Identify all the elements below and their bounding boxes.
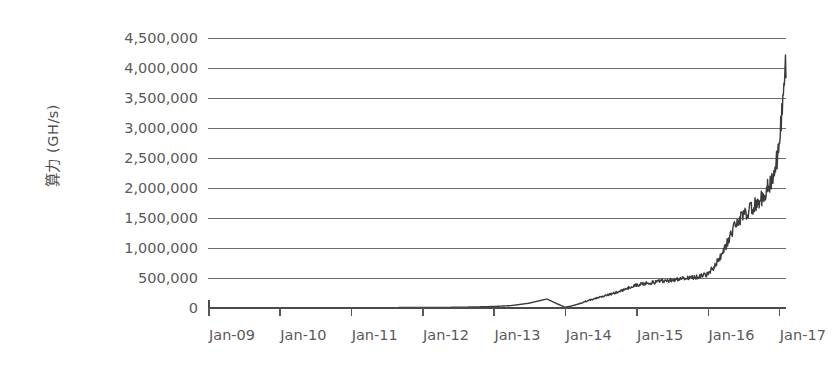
x-axis-tick — [493, 308, 495, 316]
x-axis-tick — [208, 308, 210, 316]
x-axis-tick-label: Jan-10 — [280, 326, 326, 344]
y-axis-tick-label: 3,500,000 — [70, 91, 198, 106]
x-axis-tick — [351, 308, 353, 316]
hashrate-line — [208, 55, 786, 308]
y-axis-title-label: 算力 (GH/s) — [41, 103, 62, 186]
x-axis-tick-label: Jan-13 — [494, 326, 540, 344]
y-axis-tick-label: 3,000,000 — [70, 121, 198, 136]
y-axis-tick-labels: 4,500,0004,000,0003,500,0003,000,0002,50… — [70, 0, 198, 377]
x-axis-tick — [565, 308, 567, 316]
x-axis-tick-label: Jan-12 — [423, 326, 469, 344]
x-axis-tick — [779, 308, 781, 316]
y-axis-title: 算力 (GH/s) — [34, 60, 68, 230]
y-axis-tick-label: 500,000 — [70, 271, 198, 286]
series-line — [208, 38, 786, 308]
x-axis-tick-label: Jan-17 — [780, 326, 826, 344]
y-axis-tick-label: 2,500,000 — [70, 151, 198, 166]
x-axis-tick-label: Jan-16 — [708, 326, 754, 344]
x-axis-tick-label: Jan-09 — [209, 326, 255, 344]
plot-area — [208, 38, 786, 308]
x-axis-tick — [279, 308, 281, 316]
x-axis-tick-labels: Jan-09Jan-10Jan-11Jan-12Jan-13Jan-14Jan-… — [0, 326, 839, 350]
x-axis-tick-label: Jan-15 — [637, 326, 683, 344]
y-axis-tick-label: 2,000,000 — [70, 181, 198, 196]
y-axis-tick-label: 4,000,000 — [70, 61, 198, 76]
x-axis-tick-label: Jan-11 — [352, 326, 398, 344]
x-axis-tick-label: Jan-14 — [566, 326, 612, 344]
x-axis-tick — [636, 308, 638, 316]
y-axis-tick-label: 1,500,000 — [70, 211, 198, 226]
x-axis-tick — [708, 308, 710, 316]
y-axis-tick-label: 4,500,000 — [70, 31, 198, 46]
hashrate-chart: 算力 (GH/s) 4,500,0004,000,0003,500,0003,0… — [0, 0, 839, 377]
x-axis-tick — [422, 308, 424, 316]
x-axis-ticks — [0, 308, 839, 318]
y-axis-tick-label: 1,000,000 — [70, 241, 198, 256]
